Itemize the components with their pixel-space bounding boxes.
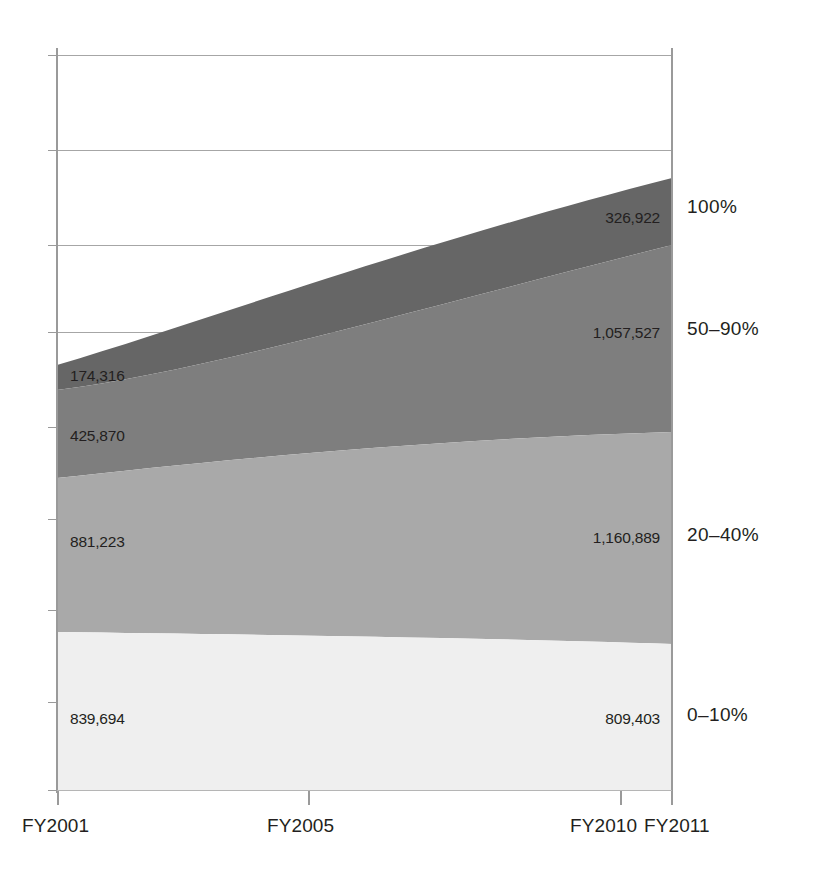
- x-axis-label-fy2011: FY2011: [644, 815, 710, 837]
- x-axis-tick-fy2011: [671, 791, 673, 805]
- x-axis-tick-fy2010: [620, 791, 622, 805]
- data-label-100-end: 326,922: [455, 209, 660, 227]
- gridline-3: [57, 245, 672, 246]
- data-label-0-10-end: 809,403: [455, 710, 660, 728]
- data-label-20-40-end: 1,160,889: [455, 529, 660, 547]
- stacked-area-bands: [0, 0, 815, 890]
- y-axis-line-right: [671, 48, 673, 793]
- legend-item-50-90: 50–90%: [687, 318, 759, 340]
- data-label-50-90-end: 1,057,527: [455, 324, 660, 342]
- x-axis-baseline: [57, 790, 672, 791]
- legend-item-0-10: 0–10%: [687, 704, 748, 726]
- x-axis-label-fy2010: FY2010: [570, 815, 637, 837]
- x-axis-label-fy2001: FY2001: [22, 815, 89, 837]
- legend-item-20-40: 20–40%: [687, 524, 759, 546]
- legend-item-100: 100%: [687, 196, 737, 218]
- area-band-50-90: [57, 245, 672, 478]
- gridline-1: [57, 55, 672, 56]
- data-label-50-90-start: 425,870: [70, 427, 125, 445]
- y-axis-line: [56, 48, 58, 793]
- data-label-20-40-start: 881,223: [70, 533, 125, 551]
- data-label-0-10-start: 839,694: [70, 710, 125, 728]
- x-axis-tick-fy2005: [308, 791, 310, 805]
- x-axis-tick-fy2001: [57, 791, 59, 805]
- x-axis-label-fy2005: FY2005: [267, 815, 334, 837]
- gridline-2: [57, 150, 672, 151]
- stacked-area-chart: 174,316 425,870 881,223 839,694 326,922 …: [0, 0, 815, 890]
- data-label-100-start: 174,316: [70, 367, 125, 385]
